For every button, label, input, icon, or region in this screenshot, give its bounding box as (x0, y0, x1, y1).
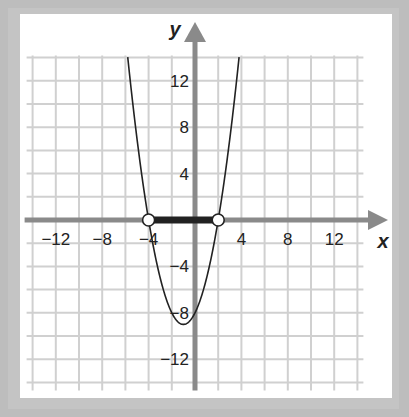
x-tick-label: 12 (325, 230, 344, 249)
open-circle-endpoint (212, 214, 224, 226)
x-tick-label: −8 (93, 230, 112, 249)
x-tick-label: −12 (41, 230, 70, 249)
x-tick-label: 8 (283, 230, 292, 249)
y-tick-label: −8 (170, 304, 189, 323)
x-tick-label: 4 (237, 230, 246, 249)
y-tick-label: 12 (170, 72, 189, 91)
x-axis-label: x (376, 230, 389, 252)
y-tick-label: 8 (180, 118, 189, 137)
parabola-chart: −12−8−448121284−4−8−12xy (0, 0, 409, 417)
open-circle-endpoint (143, 214, 155, 226)
x-tick-label: −4 (139, 230, 158, 249)
plot-background (20, 14, 392, 398)
y-tick-label: −12 (160, 350, 189, 369)
y-tick-label: 4 (180, 165, 189, 184)
y-tick-label: −4 (170, 257, 189, 276)
y-axis-label: y (168, 18, 181, 40)
